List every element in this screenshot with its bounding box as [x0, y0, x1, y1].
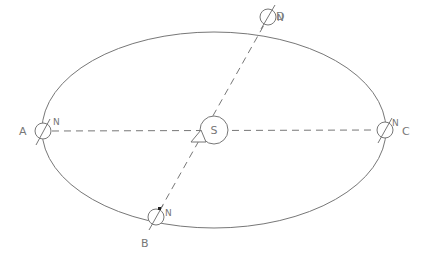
position-c: C N	[377, 118, 410, 143]
marker-dot-icon	[158, 207, 161, 210]
north-label-a: N	[53, 117, 60, 127]
position-b: B N	[141, 205, 172, 250]
north-label-b: N	[165, 208, 172, 218]
position-label-a: A	[19, 125, 27, 138]
north-label-d: N	[277, 13, 284, 23]
north-label-c: N	[392, 118, 399, 128]
position-label-b: B	[141, 237, 149, 250]
orbit-diagram: S A N D N C N B N	[0, 0, 428, 257]
position-d: D N	[260, 5, 284, 29]
position-label-c: C	[402, 125, 410, 138]
sun-label: S	[211, 124, 218, 137]
